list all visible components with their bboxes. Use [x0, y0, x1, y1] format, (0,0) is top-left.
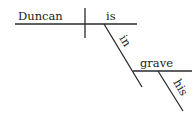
- verb-word: is: [106, 9, 116, 23]
- preposition-diagonal: [104, 24, 142, 87]
- preposition-word: in: [116, 32, 134, 49]
- prep-object-word: grave: [140, 56, 173, 70]
- sentence-diagram: Duncan is in grave his: [0, 0, 195, 117]
- subject-word: Duncan: [18, 9, 63, 23]
